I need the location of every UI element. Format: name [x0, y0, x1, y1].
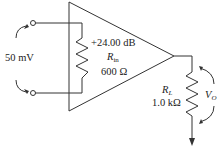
output-wire [174, 56, 192, 72]
rl-subscript: L [168, 89, 172, 97]
vo-arc-top [200, 68, 214, 84]
vo-subscript: O [211, 94, 216, 102]
gain-label: +24.00 dB [91, 37, 135, 48]
vo-arc-bottom [200, 106, 214, 122]
ground-arrow-icon [189, 138, 195, 146]
input-wire-bottom [36, 78, 83, 93]
amplifier-triangle [69, 2, 174, 111]
rl-value: 1.0 kΩ [152, 97, 181, 108]
source-arc-top [16, 26, 26, 38]
source-arc-bottom [16, 80, 26, 92]
source-voltage-label: 50 mV [5, 52, 34, 63]
input-terminal-bottom [31, 91, 36, 96]
vo-label: VO [205, 89, 216, 104]
input-resistor-icon [76, 38, 88, 78]
rin-subscript: in [113, 56, 118, 64]
input-wire-top [36, 23, 83, 38]
rin-value: 600 Ω [101, 66, 127, 77]
load-resistor-icon [186, 72, 198, 140]
rin-label: Rin [107, 51, 119, 66]
input-terminal-top [31, 21, 36, 26]
